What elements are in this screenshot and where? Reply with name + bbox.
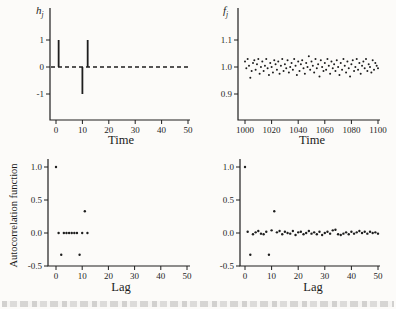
svg-text:1100: 1100 xyxy=(369,125,387,135)
x-axis-label-lag-series: Lag xyxy=(278,280,348,295)
y-axis-label-hj: hj xyxy=(36,4,44,19)
y-axis-label-fj: fj xyxy=(223,4,228,19)
svg-text:0: 0 xyxy=(54,271,59,281)
y-axis-label-autocorrelation: Autocorrelation function xyxy=(8,156,21,276)
svg-text:50: 50 xyxy=(374,271,384,281)
svg-text:1000: 1000 xyxy=(236,125,255,135)
svg-text:0.5: 0.5 xyxy=(31,195,43,205)
svg-text:0: 0 xyxy=(243,271,248,281)
svg-text:40: 40 xyxy=(347,271,357,281)
svg-text:0.5: 0.5 xyxy=(223,195,235,205)
svg-text:-0.5: -0.5 xyxy=(28,261,43,271)
svg-text:1.1: 1.1 xyxy=(221,35,232,45)
svg-text:10: 10 xyxy=(267,271,277,281)
svg-text:40: 40 xyxy=(157,125,167,135)
truncated-caption-text xyxy=(2,301,394,307)
svg-text:0: 0 xyxy=(40,62,45,72)
svg-text:-1: -1 xyxy=(37,89,45,99)
svg-text:0: 0 xyxy=(54,125,59,135)
svg-text:0.0: 0.0 xyxy=(31,228,43,238)
impulse-response-chart: 0102030405010-1 xyxy=(0,0,198,155)
svg-text:50: 50 xyxy=(183,271,193,281)
figure-panel: 0102030405010-1 100010201040106010801100… xyxy=(0,0,396,309)
svg-text:1: 1 xyxy=(40,35,45,45)
time-series-chart: 1000102010401060108011001.11.00.9 xyxy=(198,0,396,155)
svg-text:40: 40 xyxy=(156,271,166,281)
x-axis-label-time-series: Time xyxy=(277,133,347,148)
svg-text:1.0: 1.0 xyxy=(223,162,235,172)
x-axis-label-lag-filter: Lag xyxy=(86,280,156,295)
svg-text:1.0: 1.0 xyxy=(221,62,233,72)
svg-text:1.0: 1.0 xyxy=(31,162,43,172)
svg-text:50: 50 xyxy=(184,125,194,135)
x-axis-label-time-impulse: Time xyxy=(86,133,156,148)
svg-text:-0.5: -0.5 xyxy=(220,261,235,271)
svg-text:0.0: 0.0 xyxy=(223,228,235,238)
svg-text:0.9: 0.9 xyxy=(221,89,233,99)
